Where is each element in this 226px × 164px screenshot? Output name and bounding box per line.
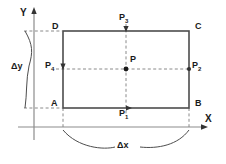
vertex-label-c: C: [195, 22, 202, 31]
point-label-p2-sub: 2: [198, 66, 201, 72]
point-label-p4-sub: 4: [51, 66, 54, 72]
point-label-p: P: [130, 55, 136, 64]
point-label-p3: P3: [119, 13, 128, 24]
delta-y-label: Δy: [11, 62, 22, 71]
point-markers-group: [124, 67, 129, 72]
delta-x-label: Δx: [117, 141, 128, 150]
y-axis-arrow-icon: [31, 7, 36, 14]
diagram-canvas: Y X D C B A P P1 P2 P3 P4 Δy Δx: [0, 0, 226, 164]
dashed-guides-group: [24, 24, 189, 127]
marker-p: [124, 67, 129, 72]
point-label-p4: P4: [45, 61, 54, 72]
axes-group: [18, 7, 208, 140]
vertex-label-d: D: [52, 22, 59, 31]
vertex-label-b: B: [195, 99, 202, 108]
point-label-p-text: P: [130, 54, 136, 64]
point-label-p3-sub: 3: [125, 18, 128, 24]
y-axis-label: Y: [20, 8, 27, 17]
x-axis-arrow-icon: [201, 124, 208, 129]
geometry-figure: [0, 0, 226, 164]
point-label-p1-sub: 1: [125, 114, 128, 120]
point-label-p2: P2: [192, 61, 201, 72]
arrow-at-p4-icon: [60, 64, 65, 71]
delta-y-brace-path: [25, 31, 32, 108]
marker-at-p2-icon: [187, 67, 191, 71]
delta-y-brace: [25, 31, 32, 108]
vertex-label-a: A: [51, 99, 58, 108]
point-label-p1: P1: [119, 109, 128, 120]
x-axis-label: X: [205, 114, 212, 123]
